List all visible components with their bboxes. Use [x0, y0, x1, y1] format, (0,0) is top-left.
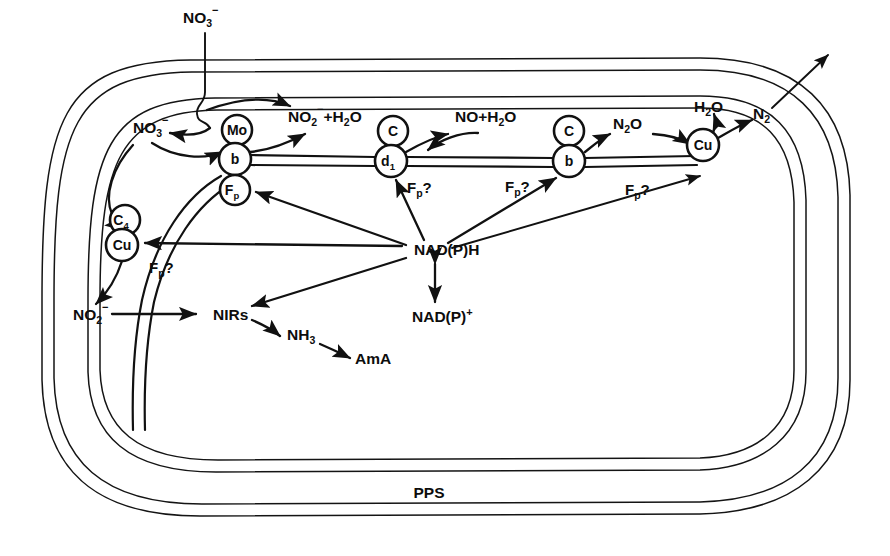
label-nitrite-internal: NO2− — [73, 301, 109, 326]
arrow-to-nitrite-product-upper — [207, 100, 290, 110]
label-fp-query-2: Fp? — [407, 179, 432, 199]
electron-chain-b-to-d1 — [251, 155, 375, 166]
node-label-mo: Mo — [227, 122, 247, 138]
electron-chain-b2-to-cu2 — [585, 156, 697, 167]
arrow-nitrate-to-mo — [152, 143, 222, 157]
arrow-ammonia-to-amino-acid — [320, 344, 350, 358]
arrow-b2-to-nitrous-oxide — [585, 134, 610, 152]
denitrification-pathway-diagram: PPS — [0, 0, 890, 556]
outer-membrane — [42, 58, 850, 516]
arrow-nirs-to-ammonia — [252, 320, 280, 336]
arrow-c1-from-nitric-oxide — [428, 133, 478, 150]
node-label-b1: b — [231, 151, 240, 167]
arrow-to-internal-nitrate — [170, 128, 210, 135]
label-nirs: NIRs — [213, 306, 248, 323]
label-water: H2O — [694, 98, 723, 118]
node-label-cu1: Cu — [113, 237, 132, 253]
label-nitrate-internal: NO3− — [133, 114, 169, 139]
label-fp-query-4: Fp? — [625, 181, 650, 201]
electron-chain-fp-to-cu1 — [133, 176, 231, 430]
arrow-nadph-to-fp1 — [256, 192, 406, 245]
node-label-c1: C — [388, 123, 398, 139]
label-nadp-plus: NAD(P)+ — [412, 306, 473, 325]
arrow-nitrous-oxide-to-cu2 — [653, 134, 690, 144]
label-fp-query-1: Fp? — [149, 259, 174, 279]
label-nitrous-oxide: N2O — [613, 115, 642, 135]
node-label-b2: b — [565, 153, 574, 169]
label-nitric-oxide-water: NO+H2O — [455, 108, 516, 128]
arrow-cu2-to-dinitrogen — [718, 120, 752, 138]
label-dinitrogen: N2 — [753, 105, 770, 125]
figure-canvas: PPS — [0, 0, 890, 556]
label-nadph: NAD(P)H — [414, 241, 479, 258]
periplasm-label: PPS — [413, 484, 444, 501]
node-label-c2: C — [564, 123, 574, 139]
label-ammonia: NH3 — [287, 326, 315, 346]
arrow-nadph-to-nirs — [252, 258, 406, 306]
arrow-d1-to-nitric-oxide — [406, 134, 448, 152]
label-nitrate-external: NO3− — [183, 4, 219, 29]
node-label-cu2: Cu — [694, 137, 713, 153]
arrow-nadph-to-cu1 — [145, 243, 402, 246]
label-amino-acid: AmA — [355, 350, 391, 367]
label-nitrite-water: NO2−+H2O — [288, 103, 362, 128]
electron-chain-d1-to-b2 — [407, 157, 553, 167]
arrow-nadph-to-cu2 — [452, 176, 700, 248]
arrow-mo-to-nitrite-water — [250, 134, 305, 152]
